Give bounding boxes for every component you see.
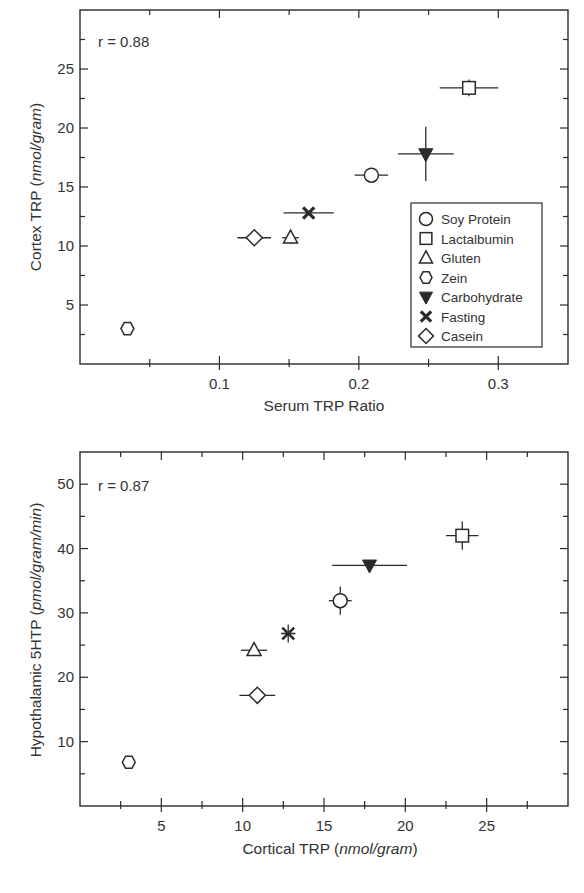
y-tick-label: 25 bbox=[57, 60, 74, 77]
y-tick-label: 30 bbox=[57, 604, 74, 621]
y-tick-label: 15 bbox=[57, 178, 74, 195]
data-point-zein bbox=[122, 756, 135, 768]
top-x-axis-title: Serum TRP Ratio bbox=[264, 397, 385, 414]
legend: Soy ProteinLactalbuminGlutenZeinCarbohyd… bbox=[411, 203, 542, 347]
x-tick-label: 20 bbox=[397, 817, 414, 834]
legend-label: Lactalbumin bbox=[441, 232, 514, 247]
bottom-y-axis-title: Hypothalamic 5HTP (pmol/gram/min) bbox=[27, 503, 44, 758]
diamond-marker-icon bbox=[249, 687, 265, 703]
square-marker-icon bbox=[420, 233, 432, 245]
bottom-y-axis-title-unit: pmol/gram/min bbox=[27, 508, 44, 612]
data-point-casein bbox=[239, 687, 275, 703]
legend-label: Zein bbox=[441, 271, 467, 286]
data-point-carbohydrate bbox=[332, 560, 407, 573]
data-point-gluten bbox=[282, 230, 299, 244]
y-tick-label: 10 bbox=[57, 237, 74, 254]
legend-item-zein: Zein bbox=[420, 271, 467, 286]
data-point-lactalbumin bbox=[446, 522, 479, 550]
bottom-x-axis-title-main: Cortical TRP ( bbox=[242, 840, 340, 857]
data-point-gluten bbox=[241, 643, 267, 656]
circle-marker-icon bbox=[420, 213, 433, 226]
bottom-x-axis-title: Cortical TRP (nmol/gram) bbox=[242, 840, 417, 857]
legend-item-casein: Casein bbox=[419, 329, 484, 344]
data-point-zein bbox=[121, 323, 134, 335]
bottom-data-points bbox=[122, 522, 478, 769]
y-tick-label: 20 bbox=[57, 119, 74, 136]
filled-triangle-down-marker-icon bbox=[363, 560, 377, 573]
data-point-lactalbumin bbox=[440, 80, 499, 97]
circle-marker-icon bbox=[364, 168, 378, 182]
legend-label: Soy Protein bbox=[441, 212, 511, 227]
y-tick-label: 5 bbox=[66, 296, 74, 313]
square-marker-icon bbox=[463, 82, 476, 95]
top-correlation-annotation: r = 0.88 bbox=[98, 33, 149, 50]
legend-label: Casein bbox=[441, 329, 483, 344]
top-y-axis-title: Cortex TRP (nmol/gram) bbox=[27, 103, 44, 271]
legend-label: Gluten bbox=[441, 251, 481, 266]
bottom-plot-frame bbox=[80, 452, 568, 806]
data-point-carbohydrate bbox=[398, 127, 454, 181]
bottom-axis-ticks: 5101520251020304050 bbox=[57, 452, 568, 834]
diamond-marker-icon bbox=[246, 230, 262, 246]
x-tick-label: 10 bbox=[234, 817, 251, 834]
x-tick-label: 0.2 bbox=[348, 375, 369, 392]
data-point-soy-protein bbox=[329, 587, 352, 615]
circle-marker-icon bbox=[333, 594, 347, 608]
data-point-fasting bbox=[281, 624, 295, 642]
figure: 0.10.20.3510152025 r = 0.88 Serum TRP Ra… bbox=[0, 0, 584, 893]
y-tick-label: 50 bbox=[57, 475, 74, 492]
data-point-soy-protein bbox=[355, 168, 388, 182]
top-y-axis-title-unit: nmol/gram bbox=[27, 108, 44, 181]
x-tick-label: 25 bbox=[478, 817, 495, 834]
x-tick-label: 0.3 bbox=[488, 375, 509, 392]
legend-label: Carbohydrate bbox=[441, 290, 523, 305]
y-tick-label: 10 bbox=[57, 733, 74, 750]
bottom-x-axis-title-close: ) bbox=[412, 840, 417, 857]
hexagon-marker-icon bbox=[121, 323, 134, 335]
x-tick-label: 0.1 bbox=[209, 375, 230, 392]
top-y-axis-title-main: Cortex TRP bbox=[27, 186, 44, 271]
triangle-up-marker-icon bbox=[247, 643, 261, 656]
top-chart-cortex-trp-vs-serum-ratio: 0.10.20.3510152025 r = 0.88 Serum TRP Ra… bbox=[27, 10, 568, 414]
triangle-up-marker-icon bbox=[284, 230, 298, 243]
y-tick-label: 40 bbox=[57, 540, 74, 557]
x-tick-label: 15 bbox=[316, 817, 333, 834]
bottom-x-axis-title-unit: nmol/gram bbox=[339, 840, 412, 857]
x-tick-label: 5 bbox=[157, 817, 165, 834]
legend-label: Fasting bbox=[441, 310, 485, 325]
data-point-casein bbox=[238, 230, 271, 246]
data-point-fasting bbox=[284, 207, 334, 218]
filled-triangle-down-marker-icon bbox=[419, 149, 433, 162]
hexagon-marker-icon bbox=[122, 756, 135, 768]
bottom-chart-5htp-vs-cortical-trp: 5101520251020304050 r = 0.87 Cortical TR… bbox=[27, 452, 568, 857]
square-marker-icon bbox=[456, 529, 469, 542]
bottom-correlation-annotation: r = 0.87 bbox=[98, 477, 149, 494]
hexagon-marker-icon bbox=[420, 272, 432, 283]
y-tick-label: 20 bbox=[57, 668, 74, 685]
bottom-y-axis-title-main: Hypothalamic 5HTP bbox=[27, 615, 44, 757]
